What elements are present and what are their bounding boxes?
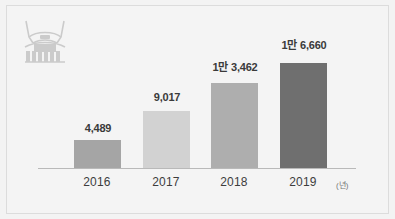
plot-area: 4,489 9,017 1만 3,462 1만 6,660 2016 2017 … xyxy=(0,0,395,219)
x-tick-label-2016: 2016 xyxy=(57,175,137,189)
bar-value-2019: 1만 6,660 xyxy=(249,36,359,52)
x-axis-unit-label: (년) xyxy=(336,179,376,190)
bar-value-2018: 1만 3,462 xyxy=(180,58,290,74)
bar-2017 xyxy=(143,111,190,168)
bar-2016 xyxy=(74,140,121,168)
bar-value-2017: 9,017 xyxy=(112,91,222,103)
x-tick-label-2018: 2018 xyxy=(194,175,274,189)
bar-value-2016: 4,489 xyxy=(43,122,153,134)
x-tick-label-2019: 2019 xyxy=(263,175,343,189)
chart-screenshot: 4,489 9,017 1만 3,462 1만 6,660 2016 2017 … xyxy=(0,0,395,219)
x-axis-line xyxy=(38,168,356,169)
bar-2019 xyxy=(280,63,327,168)
